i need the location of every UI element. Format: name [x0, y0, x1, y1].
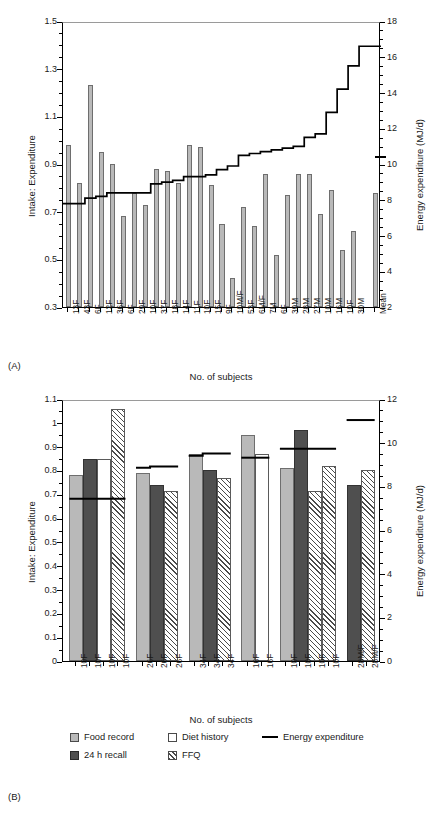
legend-label-ffq: FFQ: [182, 750, 201, 760]
chart-a-yminor-right: [380, 227, 383, 228]
chart-b-yminor-right: [380, 520, 383, 521]
chart-a-yminor-right: [380, 102, 383, 103]
chart-a-yminor-right: [380, 66, 383, 67]
chart-a-yminor: [59, 260, 62, 261]
chart-b-xlabel-15: 10F: [331, 654, 341, 668]
chart-a-yminor-right: [380, 84, 383, 85]
chart-a-xtick-7: [144, 308, 145, 312]
chart-b-yminor-right: [380, 454, 383, 455]
chart-a-yminor: [59, 69, 62, 70]
chart-b-xtick-10: [247, 662, 248, 666]
chart-b-yminor: [59, 495, 62, 496]
chart-a-xlabel-11: 11F: [192, 300, 202, 314]
chart-b-ytick-label-0.7: 0.7: [30, 490, 57, 499]
chart-a-yminor-right: [380, 173, 383, 174]
chart-b-xtick-11: [261, 662, 262, 666]
chart-a-yminor-right: [380, 236, 383, 237]
chart-b-xtick-7: [194, 662, 195, 666]
chart-b-yminor: [59, 507, 62, 508]
chart-a-yminor: [59, 212, 62, 213]
chart-b-yminor: [59, 638, 62, 639]
chart-b-xlabel-12: 10F: [289, 654, 299, 668]
chart-a-yminor-right: [380, 147, 383, 148]
chart-a-xlabel-13: 15F: [213, 300, 223, 314]
legend-swatch-diet-icon: [168, 733, 177, 742]
chart-b-ytick-right-label-10: 10: [387, 439, 411, 448]
chart-a-yminor: [59, 33, 62, 34]
chart-a-xtick-12: [199, 308, 200, 312]
chart-b-ytick-label-1: 1: [30, 419, 57, 428]
chart-a-yminor: [59, 93, 62, 94]
chart-a-ytick-right-label-14: 14: [387, 89, 411, 98]
chart-a-yminor: [59, 117, 62, 118]
chart-b-xtick-3: [117, 662, 118, 666]
chart-a-xlabel-3: 12F: [104, 300, 114, 314]
chart-b-ytick-label-0.8: 0.8: [30, 466, 57, 475]
chart-b-yminor: [59, 423, 62, 424]
chart-a-xtick-9: [166, 308, 167, 312]
legend-swatch-food-icon: [70, 733, 79, 742]
chart-a-yminor: [59, 284, 62, 285]
chart-b-ytick-right-label-0: 0: [387, 657, 411, 666]
legend-swatch-line-icon: [262, 736, 278, 738]
chart-b-ytick-label-0.3: 0.3: [30, 586, 57, 595]
chart-b-yminor: [59, 626, 62, 627]
chart-b-yminor: [59, 483, 62, 484]
chart-b-ytick-label-0.2: 0.2: [30, 609, 57, 618]
chart-a-yminor-right: [380, 165, 383, 166]
chart-b-yminor: [59, 471, 62, 472]
chart-b-yminor-right: [380, 607, 383, 608]
chart-b-yminor: [59, 447, 62, 448]
chart-b-xlabel-3: 10F: [121, 654, 131, 668]
legend-item-line: Energy expenditure: [262, 732, 364, 742]
chart-b-yminor-right: [380, 596, 383, 597]
chart-a-xtick-23: [319, 308, 320, 312]
chart-b-ylabel-right: Energy expenditure (MJ/d): [414, 485, 425, 597]
chart-a-xlabel-1: 43F: [82, 300, 92, 314]
chart-a-yminor-right: [380, 120, 383, 121]
panel-b-letter: (B): [8, 791, 21, 802]
chart-b-xtick-13: [299, 662, 300, 666]
chart-a-xtick-3: [100, 308, 101, 312]
chart-a-ytick-right-label-8: 8: [387, 196, 411, 205]
chart-b-xtick-17: [366, 662, 367, 666]
legend-label-food: Food record: [84, 732, 134, 742]
chart-b-xtick-5: [156, 662, 157, 666]
chart-b-yminor: [59, 590, 62, 591]
chart-a-ylabel-right: Energy expenditure (MJ/d): [414, 119, 425, 231]
chart-b-ytick-label-0.9: 0.9: [30, 443, 57, 452]
chart-b-yminor: [59, 554, 62, 555]
chart-a-yminor-right: [380, 209, 383, 210]
chart-b-yminor: [59, 435, 62, 436]
chart-a-xlabel-16: 53F: [246, 300, 256, 314]
chart-a-xtick-4: [111, 308, 112, 312]
chart-b-ytick-label-0: 0: [30, 657, 57, 666]
chart-a-yminor-right: [380, 57, 383, 58]
chart-a-xlabel-10: 14F: [181, 300, 191, 314]
chart-b-energy-expenditure-lines: [63, 401, 381, 663]
chart-a-yminor-right: [380, 245, 383, 246]
chart-a-xlabel-21: 28M: [301, 298, 311, 314]
chart-a-xtick-15: [231, 308, 232, 312]
chart-b-xtick-9: [222, 662, 223, 666]
chart-a-ylabel: Intake: Expenditure: [26, 135, 37, 217]
chart-a-yminor: [59, 200, 62, 201]
chart-b-ytick-right-label-4: 4: [387, 570, 411, 579]
chart-a-yminor-right: [380, 138, 383, 139]
chart-a-yminor: [59, 45, 62, 46]
chart-a-yminor-right: [380, 156, 383, 157]
chart-a-yminor-right: [380, 218, 383, 219]
legend-label-diet: Diet history: [182, 732, 229, 742]
chart-b-yminor-right: [380, 465, 383, 466]
chart-b-yminor-right: [380, 563, 383, 564]
chart-b-yminor: [59, 602, 62, 603]
chart-a-ytick-label-0.3: 0.3: [28, 303, 57, 312]
chart-b-xlabel-14: 10F: [317, 654, 327, 668]
chart-a-yminor: [59, 188, 62, 189]
chart-a-xlabel-25: 10F: [345, 300, 355, 314]
chart-a-xlabel-20: 39M: [290, 298, 300, 314]
chart-a-xtick-17: [253, 308, 254, 312]
chart-b-yminor: [59, 542, 62, 543]
chart-a-yminor-right: [380, 182, 383, 183]
chart-a-ytick-right-label-10: 10: [387, 160, 411, 169]
